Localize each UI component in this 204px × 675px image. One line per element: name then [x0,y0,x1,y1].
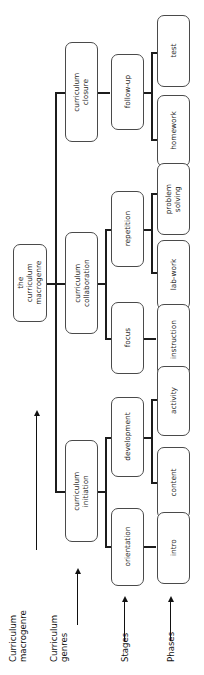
node-label: curriculum collaboration [72,259,90,307]
node-genre-curriculum-closure[interactable]: curriculum closure [65,42,98,142]
connector-trunk-initiation [55,491,65,493]
node-stage-focus[interactable]: focus [111,302,144,374]
connector-orientation-intro [144,546,156,548]
node-label: activity [169,388,178,415]
axis-label: Phases [166,552,176,662]
node-label: curriculum closure [72,73,90,112]
node-root-label: the curriculum macrogenre [16,261,44,305]
node-phase-problem-solving[interactable]: problem solving [157,163,190,235]
node-label: curriculum initiation [72,472,90,511]
node-stage-development[interactable]: development [111,397,144,477]
node-phase-activity[interactable]: activity [157,366,190,436]
axis-arrow-head [75,568,81,574]
node-label: follow-up [123,75,132,108]
connector-closure-followup [98,92,110,94]
node-genre-curriculum-initiation[interactable]: curriculum initiation [65,440,98,542]
axis-arrow-shaft [36,415,37,550]
node-label: focus [123,328,132,347]
node-label: instruction [169,321,178,360]
node-label: test [169,44,178,58]
axis-arrow-shaft [77,573,78,625]
node-label: content [169,469,178,497]
node-phase-content[interactable]: content [157,447,190,519]
node-genre-curriculum-collaboration[interactable]: curriculum collaboration [65,232,98,334]
diagram-canvas: the curriculum macrogenre curriculum clo… [0,0,204,675]
axis-label: Curriculum genres [49,552,70,662]
connector-development-bus [151,399,153,483]
node-phase-test[interactable]: test [157,15,190,87]
node-label: development [123,413,132,461]
connector-trunk-collaboration [55,283,65,285]
connector-genre-trunk [55,92,57,492]
connector-initiation-bus [105,437,107,547]
connector-focus-instruction [144,338,156,340]
node-label: problem solving [164,184,182,214]
node-label: repetition [123,211,132,246]
connector-trunk-closure [55,92,65,94]
node-stage-follow-up[interactable]: follow-up [111,54,144,130]
node-label: lab-work [169,259,178,290]
axis-label: Curriculum macrogenre [8,552,29,662]
node-phase-homework[interactable]: homework [157,95,190,167]
connector-collaboration-bus [105,229,107,339]
node-root[interactable]: the curriculum macrogenre [13,244,47,322]
node-label: homework [169,112,178,150]
node-phase-lab-work[interactable]: lab-work [157,240,190,310]
axis-arrow-head [34,410,40,416]
connector-followup-bus [151,52,153,140]
axis-label: Stages [120,552,130,662]
connector-repetition-bus [151,193,153,273]
node-stage-repetition[interactable]: repetition [111,191,144,267]
